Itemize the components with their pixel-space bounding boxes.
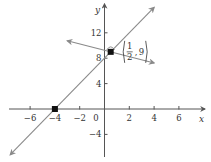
y-tick-label: 12 <box>91 28 102 38</box>
x-tick-label: −4 <box>49 113 62 123</box>
series-line-1 <box>10 7 154 154</box>
right-paren <box>146 41 148 63</box>
x-tick-label: −6 <box>24 113 37 123</box>
origin-label: 0 <box>93 113 98 123</box>
fraction-denominator: 2 <box>127 52 132 62</box>
point-x-intercept <box>52 106 58 112</box>
x-tick-label: 4 <box>151 113 156 123</box>
y-axis-label: y <box>94 5 101 15</box>
x-axis-label: x <box>199 114 204 124</box>
ticks: −6−4−22461284−4 <box>24 28 182 140</box>
y-tick-label: −4 <box>89 129 102 139</box>
chart: x y 0 −6−4−22461284−4 12,9 <box>0 0 211 162</box>
points: 12,9 <box>52 41 147 112</box>
series <box>10 7 154 154</box>
left-paren <box>123 41 125 63</box>
point-y-value: 9 <box>139 47 144 57</box>
y-tick-label: 4 <box>96 79 101 89</box>
x-tick-label: 6 <box>176 113 181 123</box>
x-tick-label: 2 <box>127 113 132 123</box>
point-label-intersection: 12,9 <box>123 41 147 63</box>
x-tick-label: −2 <box>73 113 86 123</box>
comma: , <box>135 47 138 57</box>
point-intersection <box>108 49 114 55</box>
fraction-numerator: 1 <box>127 41 132 51</box>
